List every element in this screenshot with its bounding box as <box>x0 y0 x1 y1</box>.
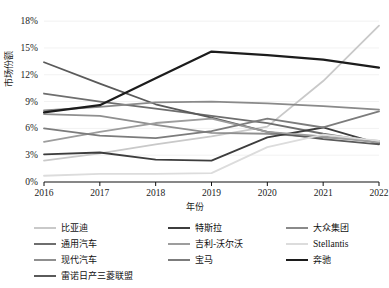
legend-item[interactable]: Stellantis <box>286 236 389 251</box>
legend-label: 雷诺日产三菱联盟 <box>61 269 133 282</box>
legend-label: 比亚迪 <box>61 221 88 234</box>
plot-area: 市场份额 0%3%6%9%12%15%18% 20162017201820192… <box>0 0 389 216</box>
legend-line-swatch <box>286 227 308 229</box>
chart-screenshot: 市场份额 0%3%6%9%12%15%18% 20162017201820192… <box>0 0 389 288</box>
x-tick-label: 2019 <box>192 188 232 198</box>
chart-legend: 比亚迪通用汽车现代汽车雷诺日产三菱联盟 特斯拉吉利-沃尔沃宝马 大众集团Stel… <box>0 220 389 288</box>
legend-label: 吉利-沃尔沃 <box>195 237 243 250</box>
legend-line-swatch <box>286 259 308 261</box>
legend-line-swatch <box>286 243 308 245</box>
legend-line-swatch <box>34 259 56 261</box>
legend-label: 大众集团 <box>313 221 349 234</box>
x-tick-label: 2017 <box>80 188 120 198</box>
legend-line-swatch <box>168 243 190 245</box>
legend-label: 奔驰 <box>313 253 331 266</box>
legend-line-swatch <box>34 243 56 245</box>
legend-item[interactable]: 宝马 <box>168 252 286 267</box>
legend-column-1: 比亚迪通用汽车现代汽车雷诺日产三菱联盟 <box>34 220 174 284</box>
legend-item[interactable]: 通用汽车 <box>34 236 174 251</box>
legend-label: 特斯拉 <box>195 221 222 234</box>
legend-item[interactable]: 大众集团 <box>286 220 389 235</box>
legend-line-swatch <box>168 227 190 229</box>
line-chart-svg <box>0 0 389 216</box>
legend-column-2: 特斯拉吉利-沃尔沃宝马 <box>168 220 286 268</box>
legend-line-swatch <box>34 227 56 229</box>
legend-item[interactable]: 现代汽车 <box>34 252 174 267</box>
legend-label: 现代汽车 <box>61 253 97 266</box>
legend-item[interactable]: 特斯拉 <box>168 220 286 235</box>
legend-column-3: 大众集团Stellantis奔驰 <box>286 220 389 268</box>
legend-label: Stellantis <box>313 239 348 249</box>
x-axis-title: 年份 <box>0 200 389 213</box>
legend-item[interactable]: 比亚迪 <box>34 220 174 235</box>
legend-label: 通用汽车 <box>61 237 97 250</box>
x-tick-label: 2018 <box>136 188 176 198</box>
legend-item[interactable]: 奔驰 <box>286 252 389 267</box>
legend-line-swatch <box>168 259 190 261</box>
x-tick-label: 2021 <box>303 188 343 198</box>
x-tick-label: 2022 <box>359 188 389 198</box>
legend-item[interactable]: 吉利-沃尔沃 <box>168 236 286 251</box>
x-tick-label: 2016 <box>24 188 64 198</box>
legend-label: 宝马 <box>195 253 213 266</box>
legend-line-swatch <box>34 275 56 277</box>
legend-item[interactable]: 雷诺日产三菱联盟 <box>34 268 174 283</box>
x-tick-label: 2020 <box>247 188 287 198</box>
